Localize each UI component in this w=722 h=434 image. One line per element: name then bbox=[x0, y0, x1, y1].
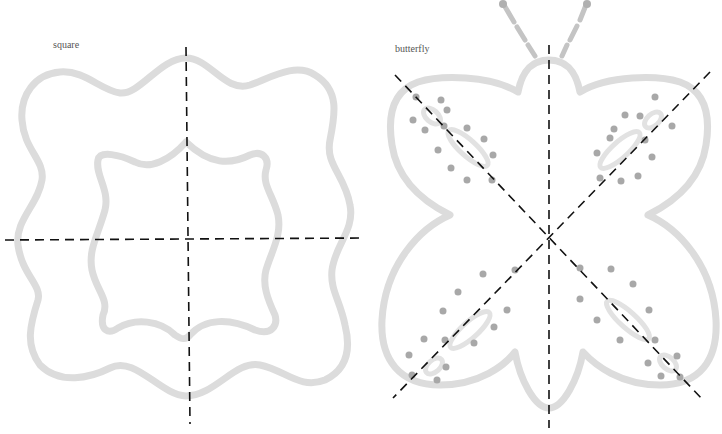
square-vertical-axis bbox=[186, 47, 190, 424]
square-outer-outline bbox=[18, 58, 351, 396]
square-symmetry-lines bbox=[5, 47, 365, 424]
square-inner-outline bbox=[91, 142, 279, 339]
square-horizontal-axis bbox=[5, 238, 365, 240]
symmetry-diagram bbox=[0, 0, 722, 434]
wing-patterns bbox=[421, 105, 680, 377]
antennae bbox=[504, 5, 586, 56]
square-figure bbox=[18, 58, 351, 396]
